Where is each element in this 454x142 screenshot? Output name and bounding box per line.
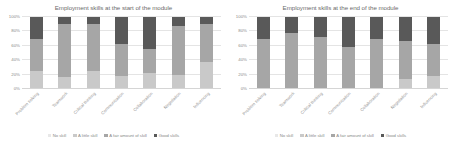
chart-panel-end: Employment skills at the end of the modu… bbox=[227, 0, 454, 142]
legend-item: No skill bbox=[275, 133, 293, 138]
bar-segment bbox=[172, 17, 185, 26]
y-axis-tick-label: 40% bbox=[238, 57, 247, 62]
y-axis-tick-label: 100% bbox=[9, 14, 20, 19]
stacked-bar bbox=[87, 17, 100, 89]
legend-item: A fair amount of skill bbox=[331, 133, 373, 138]
legend-swatch bbox=[331, 134, 334, 137]
bar-group-end bbox=[249, 17, 448, 89]
x-axis-tick-label: Negotiation bbox=[390, 91, 409, 110]
bar-segment bbox=[427, 44, 440, 76]
stacked-bar bbox=[200, 17, 213, 89]
x-axis-tick-label: Teamwork bbox=[278, 91, 295, 108]
bar-segment bbox=[257, 17, 270, 39]
bar-segment bbox=[342, 47, 355, 89]
x-axis-tick-label: Critical thinking bbox=[299, 91, 323, 115]
legend-swatch bbox=[104, 134, 107, 137]
stacked-bar bbox=[257, 17, 270, 89]
y-axis-tick-label: 80% bbox=[11, 28, 20, 33]
x-axis-tick-label: Communication bbox=[100, 91, 125, 116]
x-axis-tick-label: Problem solving bbox=[15, 91, 40, 116]
plot-area-end: 0%20%40%60%80%100% bbox=[249, 17, 448, 89]
legend-label: A little skill bbox=[78, 133, 97, 138]
stacked-bar bbox=[427, 17, 440, 89]
x-axis-tick-label: Influencing bbox=[419, 91, 437, 109]
bar-segment bbox=[314, 17, 327, 37]
x-axis-tick-label: Collaboration bbox=[359, 91, 380, 112]
legend-swatch bbox=[73, 134, 76, 137]
bar-segment bbox=[314, 37, 327, 89]
bar-group-start bbox=[22, 17, 221, 89]
x-axis-line-start bbox=[22, 88, 221, 89]
x-axis-label-slot: Problem solving bbox=[257, 90, 270, 120]
bar-segment bbox=[87, 71, 100, 89]
bar-segment bbox=[172, 75, 185, 89]
legend-item: A little skill bbox=[300, 133, 324, 138]
x-axis-label-slot: Critical thinking bbox=[314, 90, 327, 120]
bar-segment bbox=[30, 17, 43, 39]
stacked-bar bbox=[30, 17, 43, 89]
y-axis-tick-label: 100% bbox=[236, 14, 247, 19]
employment-skills-chart-board: Employment skills at the start of the mo… bbox=[0, 0, 454, 142]
stacked-bar bbox=[314, 17, 327, 89]
bar-segment bbox=[172, 26, 185, 75]
bar-segment bbox=[399, 17, 412, 41]
stacked-bar bbox=[143, 17, 156, 89]
stacked-bar bbox=[58, 17, 71, 89]
x-axis-tick-label: Critical thinking bbox=[72, 91, 96, 115]
bar-segment bbox=[370, 39, 383, 89]
y-axis-tick-label: 60% bbox=[11, 42, 20, 47]
stacked-bar bbox=[115, 17, 128, 89]
stacked-bar bbox=[399, 17, 412, 89]
x-axis-tick-label: Negotiation bbox=[163, 91, 182, 110]
plot-area-start: 0%20%40%60%80%100% bbox=[22, 17, 221, 89]
bar-segment bbox=[200, 24, 213, 61]
bar-segment bbox=[342, 17, 355, 47]
bar-segment bbox=[427, 17, 440, 44]
legend-label: No skill bbox=[53, 133, 67, 138]
stacked-bar bbox=[370, 17, 383, 89]
x-axis-label-slot: Collaboration bbox=[370, 90, 383, 120]
y-axis-tick-label: 60% bbox=[238, 42, 247, 47]
legend-item: Good skills bbox=[381, 133, 406, 138]
x-axis-line-end bbox=[249, 88, 448, 89]
x-axis-label-slot: Teamwork bbox=[58, 90, 71, 120]
legend-item: No skill bbox=[48, 133, 66, 138]
bar-segment bbox=[399, 41, 412, 78]
chart-title-end: Employment skills at the end of the modu… bbox=[227, 4, 454, 11]
bar-segment bbox=[200, 17, 213, 24]
stacked-bar bbox=[172, 17, 185, 89]
legend-item: A fair amount of skill bbox=[104, 133, 146, 138]
x-axis-label-slot: Teamwork bbox=[285, 90, 298, 120]
legend-swatch bbox=[275, 134, 278, 137]
x-axis-label-slot: Influencing bbox=[200, 90, 213, 120]
legend-label: No skill bbox=[280, 133, 294, 138]
stacked-bar bbox=[285, 17, 298, 89]
legend-item: Good skills bbox=[154, 133, 179, 138]
bar-segment bbox=[87, 17, 100, 24]
y-axis-tick-label: 80% bbox=[238, 28, 247, 33]
legend-swatch bbox=[381, 134, 384, 137]
legend-swatch bbox=[48, 134, 51, 137]
bar-segment bbox=[58, 24, 71, 77]
y-axis-tick-label: 40% bbox=[11, 57, 20, 62]
x-axis-tick-label: Problem solving bbox=[242, 91, 267, 116]
bar-segment bbox=[30, 39, 43, 71]
y-axis-tick-label: 20% bbox=[238, 71, 247, 76]
x-axis-labels-start: Problem solvingTeamworkCritical thinking… bbox=[22, 90, 221, 120]
x-axis-label-slot: Negotiation bbox=[399, 90, 412, 120]
x-axis-label-slot: Problem solving bbox=[30, 90, 43, 120]
y-axis-tick-label: 0% bbox=[14, 86, 20, 91]
legend-swatch bbox=[300, 134, 303, 137]
legend-label: Good skills bbox=[386, 133, 406, 138]
legend-start: No skillA little skillA fair amount of s… bbox=[0, 133, 227, 138]
legend-item: A little skill bbox=[73, 133, 97, 138]
bar-segment bbox=[87, 24, 100, 71]
stacked-bar bbox=[342, 17, 355, 89]
x-axis-label-slot: Influencing bbox=[427, 90, 440, 120]
bar-segment bbox=[370, 17, 383, 39]
bar-segment bbox=[30, 71, 43, 89]
x-axis-label-slot: Communication bbox=[115, 90, 128, 120]
x-axis-label-slot: Critical thinking bbox=[87, 90, 100, 120]
x-axis-tick-label: Influencing bbox=[192, 91, 210, 109]
x-axis-label-slot: Collaboration bbox=[143, 90, 156, 120]
